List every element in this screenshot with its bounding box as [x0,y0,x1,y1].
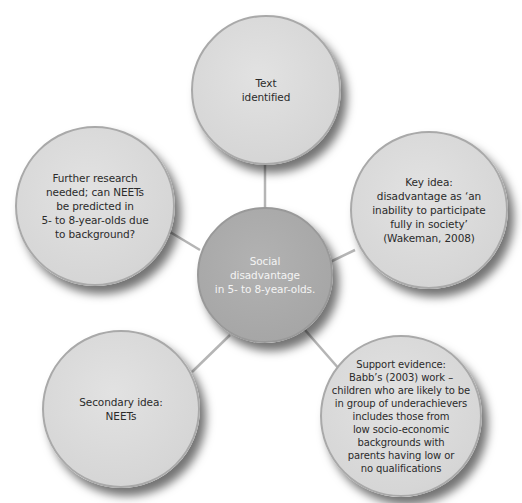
node-secondary-idea: Secondary idea: NEETs [42,330,200,488]
connector-right [330,250,355,262]
node-label: Text identified [242,76,290,104]
node-text-identified: Text identified [191,15,341,165]
node-support-evidence: Support evidence: Babb’s (2003) work – c… [320,335,482,497]
node-label: Key idea: disadvantage as ‘an inability … [372,175,485,245]
central-label: Social disadvantage in 5- to 8-year-olds… [215,254,315,296]
node-central-topic: Social disadvantage in 5- to 8-year-olds… [197,207,333,343]
node-further-research: Further research needed; can NEETs be pr… [15,126,175,286]
node-label: Secondary idea: NEETs [79,395,162,423]
node-key-idea: Key idea: disadvantage as ‘an inability … [350,131,508,289]
node-label: Support evidence: Babb’s (2003) work – c… [332,358,470,475]
node-label: Further research needed; can NEETs be pr… [41,171,148,241]
connector-bottom-left [192,335,230,372]
connector-left [170,232,200,250]
